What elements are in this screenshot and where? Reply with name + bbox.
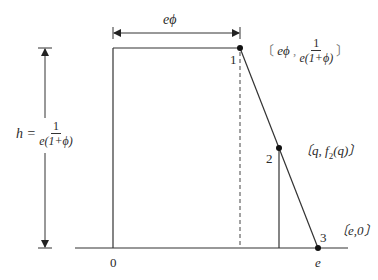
point-2-coord-head: 〔q, f	[299, 143, 329, 158]
point-1-open-bracket: 〔	[261, 43, 274, 58]
height-numerator: 1	[51, 120, 61, 134]
point-1-y-denominator: e(1+ϕ)	[300, 51, 334, 64]
point-1-y-numerator: 1	[311, 37, 321, 51]
height-label: h = 1 e(1+ϕ)	[16, 120, 73, 147]
point-1-coordinate: 〔 eϕ , 1 e(1+ϕ) 〕	[261, 37, 349, 64]
point-2-coord-tail: (q)〕	[333, 143, 361, 158]
height-denominator: e(1+ϕ)	[39, 134, 73, 147]
point-1-y-fraction: 1 e(1+ϕ)	[300, 37, 334, 64]
end-label: e	[315, 256, 321, 269]
point-1-sep: ,	[293, 43, 296, 58]
point-3-coordinate: 〔e,0〕	[335, 224, 377, 237]
width-label: eϕ	[163, 13, 176, 27]
origin-label: 0	[110, 256, 117, 269]
point-3-label: 3	[320, 231, 327, 244]
height-lhs: h =	[16, 126, 36, 141]
point-1-x: eϕ	[277, 43, 290, 58]
point-2-marker	[276, 145, 282, 151]
point-2-coordinate: 〔q, f2(q)〕	[299, 144, 361, 161]
point-2-label: 2	[266, 152, 273, 165]
height-fraction: 1 e(1+ϕ)	[39, 120, 73, 147]
point-1-label: 1	[230, 53, 237, 66]
point-1-close-bracket: 〕	[336, 43, 349, 58]
point-1-marker	[237, 45, 243, 51]
point-3-marker	[315, 245, 321, 251]
